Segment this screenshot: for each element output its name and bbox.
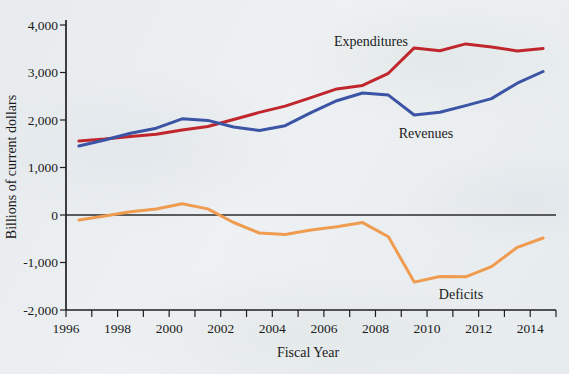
x-tick-label: 2002 [207,321,234,336]
x-tick-label: 2008 [362,321,389,336]
x-tick-label: 2006 [310,321,337,336]
y-tick-label: 2,000 [28,113,59,128]
x-tick-label: 2000 [156,321,183,336]
y-tick-label: 0 [51,208,58,223]
x-tick-label: 2014 [517,321,544,336]
x-tick-label: 1998 [104,321,131,336]
expenditures-series-label: Expenditures [311,34,431,50]
y-tick-label: -1,000 [23,255,58,270]
deficits-series-label: Deficits [401,287,521,303]
y-axis-title: Billions of current dollars [4,87,20,247]
x-tick-label: 2010 [414,321,441,336]
x-tick-label: 1996 [53,321,80,336]
y-tick-label: 3,000 [28,65,59,80]
revenues-series-label: Revenues [366,126,486,142]
chart-svg: 4,0003,0002,0001,0000-1,000-2,0001996199… [0,0,569,374]
x-axis-title: Fiscal Year [248,345,368,361]
y-tick-label: -2,000 [23,303,58,318]
x-tick-label: 2012 [465,321,492,336]
y-tick-label: 4,000 [28,18,59,33]
x-tick-label: 2004 [259,321,286,336]
y-tick-label: 1,000 [28,160,59,175]
scanned-page: 4,0003,0002,0001,0000-1,000-2,0001996199… [0,0,569,374]
